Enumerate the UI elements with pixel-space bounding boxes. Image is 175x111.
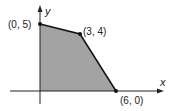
diagram-canvas	[0, 0, 175, 111]
vertex-point	[78, 32, 82, 36]
vertex-label: (6, 0)	[120, 96, 143, 106]
y-axis-label: y	[45, 6, 51, 17]
vertex-label: (0, 5)	[8, 20, 31, 30]
vertex-label: (3, 4)	[83, 27, 106, 37]
vertex-point	[114, 89, 118, 93]
x-axis-arrow-icon	[157, 89, 164, 94]
y-axis-arrow-icon	[38, 5, 43, 12]
x-axis-label: x	[160, 77, 166, 88]
vertex-point	[38, 22, 42, 26]
